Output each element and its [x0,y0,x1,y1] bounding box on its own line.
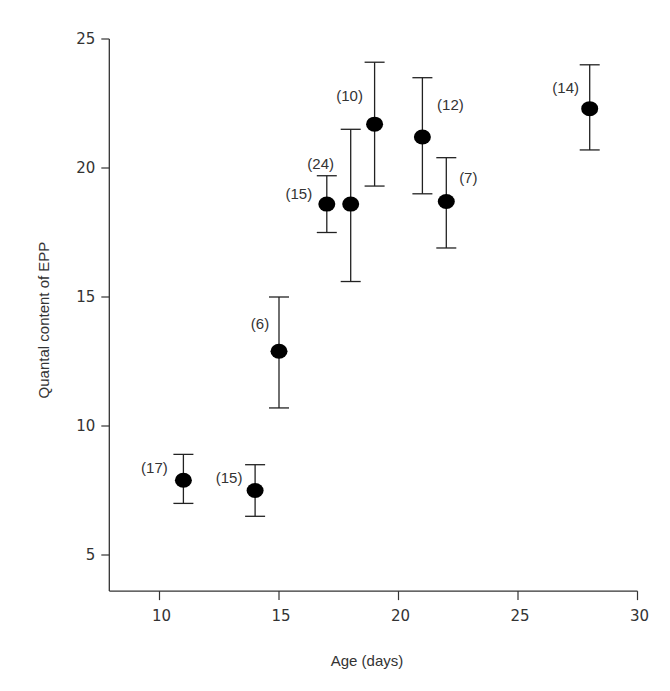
x-tick-label: 10 [152,607,171,625]
marker-circle [271,344,288,359]
marker-circle [414,130,431,145]
marker-circle [318,197,335,212]
data-point: (6) [251,297,289,408]
y-tick-label: 25 [76,30,95,48]
sample-size-label: (6) [251,315,269,332]
data-point: (15) [216,465,265,517]
sample-size-label: (14) [552,79,579,96]
data-point: (14) [552,65,599,150]
y-tick-label: 15 [76,288,95,306]
data-point: (17) [141,454,193,503]
marker-circle [366,117,383,132]
y-axis-ticks: 510152025 [76,30,109,564]
x-tick-label: 30 [630,607,649,625]
marker-circle [175,473,192,488]
marker-circle [342,197,359,212]
y-tick-label: 5 [86,546,96,564]
data-point: (15) [285,176,336,233]
y-axis-title: Quantal content of EPP [35,242,52,399]
y-tick-label: 20 [76,159,95,177]
marker-circle [438,194,455,209]
data-point: (12) [412,78,463,194]
sample-size-label: (7) [459,169,477,186]
y-tick-label: 10 [76,417,95,435]
data-points: (17)(15)(6)(15)(24)(10)(12)(7)(14) [141,62,600,516]
data-point: (10) [336,62,384,186]
data-point: (7) [436,158,477,248]
x-axis-title: Age (days) [331,652,404,669]
sample-size-label: (15) [216,469,243,486]
sample-size-label: (15) [285,185,312,202]
sample-size-label: (12) [437,96,464,113]
sample-size-label: (24) [307,155,334,172]
x-axis-ticks: 1015202530 [152,591,649,625]
marker-circle [247,483,264,498]
sample-size-label: (17) [141,459,168,476]
marker-circle [581,101,598,116]
x-tick-label: 25 [510,607,529,625]
x-tick-label: 15 [271,607,290,625]
sample-size-label: (10) [336,87,363,104]
scatter-chart: 510152025 1015202530 Quantal content of … [0,0,670,691]
x-tick-label: 20 [391,607,410,625]
